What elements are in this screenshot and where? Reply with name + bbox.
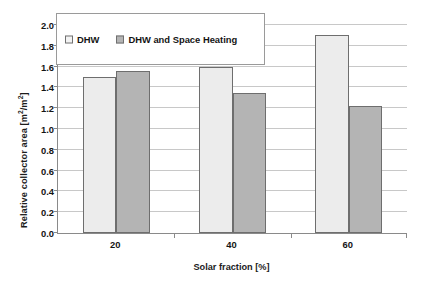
y-axis-tick-label: 0.0	[18, 228, 54, 239]
y-axis-tick-mark	[54, 190, 58, 191]
y-axis-tick-label: 0.6	[18, 165, 54, 176]
x-axis-tick-label-20: 20	[110, 239, 120, 250]
x-axis-title: Solar fraction [%]	[57, 262, 406, 272]
y-axis-tick-mark	[54, 232, 58, 233]
y-axis-tick-mark	[54, 170, 58, 171]
y-axis-tick-label: 1.6	[18, 61, 54, 72]
bar-dhw-and-space-heating-20	[116, 71, 150, 233]
y-axis-tick-label: 0.2	[18, 207, 54, 218]
y-axis-tick-mark	[54, 66, 58, 67]
y-axis-tick-label: 1.2	[18, 103, 54, 114]
bar-dhw-and-space-heating-60	[349, 106, 383, 233]
bar-chart-figure: Relative collector area [m2/m2] 0.00.20.…	[0, 0, 423, 286]
y-axis-title-container: Relative collector area [m2/m2]	[0, 0, 20, 240]
y-axis-tick-mark	[54, 86, 58, 87]
bar-dhw-60	[315, 35, 349, 233]
legend-item-0: DHW	[65, 34, 99, 45]
legend-swatch-icon	[116, 35, 124, 43]
y-axis-tick-labels: 0.00.20.40.60.81.01.21.41.61.82.0	[18, 0, 54, 286]
bar-dhw-and-space-heating-40	[233, 93, 267, 233]
y-axis-tick-mark	[54, 107, 58, 108]
legend-items: DHWDHW and Space Heating	[57, 34, 264, 45]
y-axis-tick-mark	[54, 211, 58, 212]
legend-swatch-icon	[65, 35, 73, 43]
y-axis-tick-label: 1.4	[18, 82, 54, 93]
x-axis-tick-mark	[406, 233, 407, 238]
y-axis-tick-label: 1.8	[18, 40, 54, 51]
x-axis-tick-mark	[174, 233, 175, 238]
legend-item-1: DHW and Space Heating	[116, 34, 237, 45]
y-axis-tick-label: 0.8	[18, 144, 54, 155]
bar-dhw-20	[83, 77, 117, 233]
legend-label: DHW	[77, 34, 99, 45]
y-axis-tick-label: 1.0	[18, 124, 54, 135]
legend-label: DHW and Space Heating	[128, 34, 237, 45]
gridline	[58, 66, 407, 67]
y-axis-tick-mark	[54, 128, 58, 129]
y-axis-tick-label: 0.4	[18, 186, 54, 197]
x-axis-tick-labels: 204060	[57, 239, 406, 255]
x-axis-tick-label-40: 40	[226, 239, 236, 250]
x-axis-tick-label-60: 60	[343, 239, 353, 250]
y-axis-tick-mark	[54, 149, 58, 150]
x-axis-tick-mark	[291, 233, 292, 238]
bar-dhw-40	[199, 67, 233, 233]
chart-legend: DHWDHW and Space Heating	[56, 13, 265, 65]
y-axis-tick-label: 2.0	[18, 20, 54, 31]
